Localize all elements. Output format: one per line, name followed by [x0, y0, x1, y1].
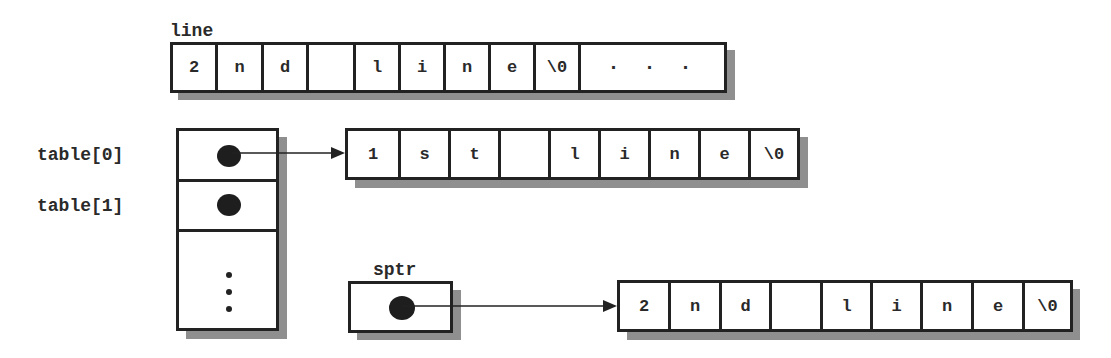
pointer-arrows [0, 0, 1111, 358]
arrowhead-icon [331, 147, 345, 159]
arrowhead-icon [603, 300, 617, 312]
